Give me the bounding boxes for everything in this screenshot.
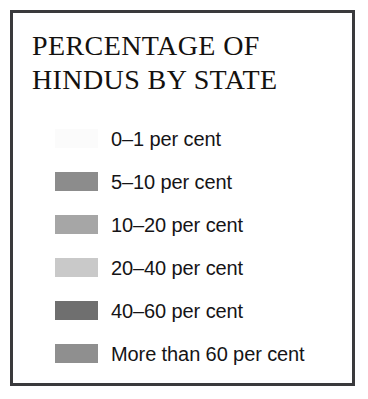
legend-entries: 0–1 per cent 5–10 per cent 10–20 per cen… bbox=[13, 117, 352, 375]
legend-row: More than 60 per cent bbox=[13, 332, 352, 375]
legend-swatch bbox=[55, 301, 98, 320]
legend-label: 5–10 per cent bbox=[111, 171, 232, 193]
legend-label: 10–20 per cent bbox=[111, 214, 243, 236]
legend-title-line-1: Percentage of bbox=[32, 29, 332, 63]
legend-title: Percentage of Hindus by State bbox=[32, 29, 332, 97]
legend-row: 5–10 per cent bbox=[13, 160, 352, 203]
legend-row: 10–20 per cent bbox=[13, 203, 352, 246]
legend-label: 0–1 per cent bbox=[111, 128, 221, 150]
legend-label: 20–40 per cent bbox=[111, 257, 243, 279]
legend-title-line-2: Hindus by State bbox=[32, 63, 332, 97]
legend-swatch bbox=[55, 344, 98, 363]
legend-swatch bbox=[55, 215, 98, 234]
legend-row: 40–60 per cent bbox=[13, 289, 352, 332]
legend-label: More than 60 per cent bbox=[111, 343, 305, 365]
legend-swatch bbox=[55, 172, 98, 191]
legend-row: 0–1 per cent bbox=[13, 117, 352, 160]
legend-swatch bbox=[55, 129, 98, 148]
legend-card: Percentage of Hindus by State 0–1 per ce… bbox=[10, 10, 355, 386]
legend-swatch bbox=[55, 258, 98, 277]
legend-row: 20–40 per cent bbox=[13, 246, 352, 289]
legend-label: 40–60 per cent bbox=[111, 300, 243, 322]
